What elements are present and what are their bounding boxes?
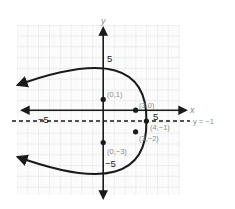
x-axis-label: x xyxy=(189,105,195,115)
x-tick-pos5: 5 xyxy=(153,111,158,122)
point-label-0-1: (0,1) xyxy=(107,90,123,99)
point-0-1 xyxy=(101,97,106,102)
y-tick-pos5: 5 xyxy=(107,53,112,64)
point-3-0 xyxy=(133,108,138,113)
dashed-line-label: y = −1 xyxy=(193,117,214,126)
y-tick-neg5: −5 xyxy=(105,158,116,169)
point-3-neg2 xyxy=(133,129,138,134)
y-axis-label: y xyxy=(100,16,106,26)
point-label-0-neg3: (0,−3) xyxy=(107,147,127,156)
parabola-graph: y x −5 5 5 −5 (0,1) (3,0) (4,−1) (3,−2) … xyxy=(0,0,235,209)
point-label-3-0: (3,0) xyxy=(139,101,155,110)
point-0-neg3 xyxy=(101,140,106,145)
point-label-4-neg1: (4,−1) xyxy=(150,123,170,132)
point-4-neg1 xyxy=(144,118,149,123)
point-label-3-neg2: (3,−2) xyxy=(139,134,159,143)
x-tick-neg5: −5 xyxy=(38,114,49,125)
